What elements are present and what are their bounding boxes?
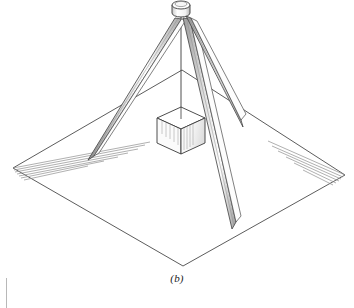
ground-plane-outline	[13, 70, 345, 266]
apex-collar-bore	[175, 1, 187, 6]
figure-container: (b)	[0, 0, 354, 308]
apex-collar	[172, 1, 190, 17]
tripod-diagram	[0, 0, 354, 308]
figure-caption: (b)	[0, 272, 354, 284]
ground-plane	[13, 70, 345, 266]
page-margin-rule	[6, 278, 7, 308]
